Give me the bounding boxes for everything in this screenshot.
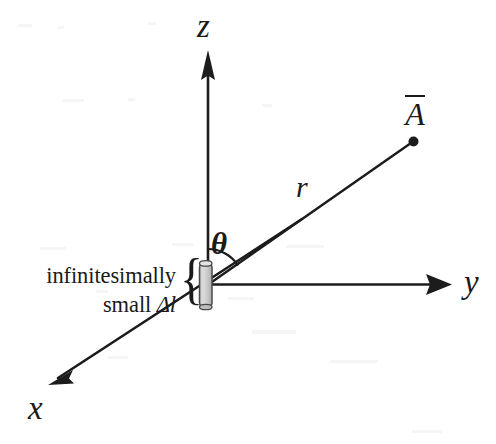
r-vector-line xyxy=(209,137,419,285)
caption-line-2-prefix: small xyxy=(103,292,157,317)
x-axis-label: x xyxy=(28,392,43,425)
theta-label: θ xyxy=(211,228,227,259)
delta-l-symbol: Δl xyxy=(157,292,176,317)
point-a-marker xyxy=(409,137,419,147)
brace-icon: { xyxy=(180,252,203,308)
caption-line-1: infinitesimally xyxy=(0,262,176,291)
z-axis-label: z xyxy=(197,10,210,43)
coordinate-diagram-svg xyxy=(0,0,496,444)
caption-line-2: small Δl xyxy=(0,291,176,320)
figure-canvas: z y x r θ A { infinitesimally small Δl xyxy=(0,0,496,444)
point-a-label: A xyxy=(404,95,426,130)
r-label: r xyxy=(296,172,308,202)
delta-l-caption: infinitesimally small Δl xyxy=(0,262,176,320)
y-axis xyxy=(208,274,452,295)
y-axis-label: y xyxy=(464,266,479,299)
